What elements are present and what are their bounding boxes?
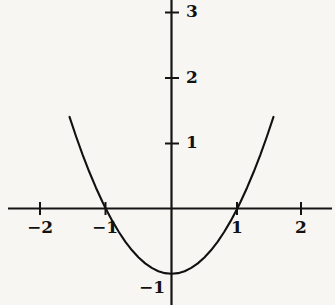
chart-figure: −2 −1 1 2 3 2 1 −1 bbox=[0, 0, 335, 305]
x-tick-label-neg2: −2 bbox=[24, 219, 56, 236]
y-tick-label-pos2: 2 bbox=[186, 69, 198, 86]
y-tick-label-pos3: 3 bbox=[186, 3, 198, 20]
y-tick-label-neg1: −1 bbox=[139, 279, 165, 296]
parabola-plot bbox=[0, 0, 335, 305]
x-tick-label-neg1: −1 bbox=[89, 219, 121, 236]
x-tick-label-pos2: 2 bbox=[290, 219, 312, 236]
y-tick-label-pos1: 1 bbox=[186, 134, 198, 151]
x-tick-label-pos1: 1 bbox=[226, 219, 248, 236]
